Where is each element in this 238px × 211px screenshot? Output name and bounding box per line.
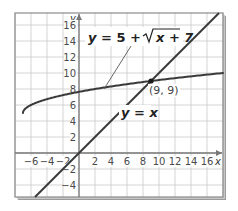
- x-tick-label: 10: [153, 156, 166, 167]
- x-tick-label: 6: [124, 156, 130, 167]
- y-tick-label: 6: [70, 100, 76, 111]
- x-tick-label: 8: [140, 156, 146, 167]
- y-tick-label: 10: [63, 68, 76, 79]
- x-tick-label: −6: [24, 156, 39, 167]
- y-tick-label: 4: [70, 116, 76, 127]
- intersection-label: (9, 9): [149, 84, 179, 97]
- line-equation-label: y = x: [121, 105, 158, 120]
- x-axis-label: x: [214, 156, 221, 167]
- x-tick-label: 12: [169, 156, 182, 167]
- curve-equation-label: y = 5 +: [88, 30, 141, 45]
- y-tick-label: 14: [63, 36, 76, 47]
- y-tick-label: 12: [63, 52, 76, 63]
- y-tick-label: −4: [61, 180, 76, 191]
- radicand-label: x + 7: [155, 30, 194, 45]
- x-tick-label: 16: [201, 156, 214, 167]
- x-tick-label: 4: [108, 156, 114, 167]
- x-tick-label: 2: [92, 156, 98, 167]
- graph: xy −6−4−2246810121416−4−2246810121416 (9…: [0, 0, 238, 211]
- intersection-point: [148, 78, 153, 83]
- x-tick-label: 14: [185, 156, 198, 167]
- y-tick-label: 16: [63, 20, 76, 31]
- y-tick-label: 2: [70, 132, 76, 143]
- x-tick-label: −4: [40, 156, 55, 167]
